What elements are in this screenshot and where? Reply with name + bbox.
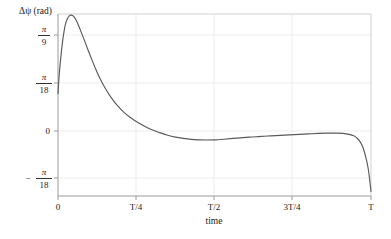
y-tick-label-pi-over-18: π 18 <box>36 72 52 95</box>
x-tick-label-0: 0 <box>56 202 61 212</box>
y-tick-label-pi-over-9: π 9 <box>38 24 50 47</box>
svg-text:π: π <box>42 24 47 34</box>
svg-text:−: − <box>25 173 30 183</box>
svg-text:π: π <box>42 72 47 82</box>
x-tick-label-t: T <box>368 202 374 212</box>
x-tick-marks <box>58 196 371 200</box>
x-tick-label-t-over-2: T/2 <box>208 202 221 212</box>
x-axis-label: time <box>206 216 223 226</box>
chart-svg: Δψ (rad) π 9 π 18 0 − π 18 0 T/4 T/2 3T/… <box>0 0 391 239</box>
y-tick-label-zero: 0 <box>46 126 51 136</box>
chart-figure: Δψ (rad) π 9 π 18 0 − π 18 0 T/4 T/2 3T/… <box>0 0 391 239</box>
y-tick-label-minus-pi-over-18: − π 18 <box>25 167 52 190</box>
x-tick-label-t-over-4: T/4 <box>130 202 143 212</box>
svg-text:π: π <box>42 167 47 177</box>
y-axis-label: Δψ (rad) <box>19 6 52 17</box>
svg-text:18: 18 <box>40 180 50 190</box>
x-tick-label-3t-over-4: 3T/4 <box>284 202 301 212</box>
svg-text:18: 18 <box>40 85 50 95</box>
y-tick-marks <box>54 35 58 178</box>
svg-text:9: 9 <box>42 37 47 47</box>
